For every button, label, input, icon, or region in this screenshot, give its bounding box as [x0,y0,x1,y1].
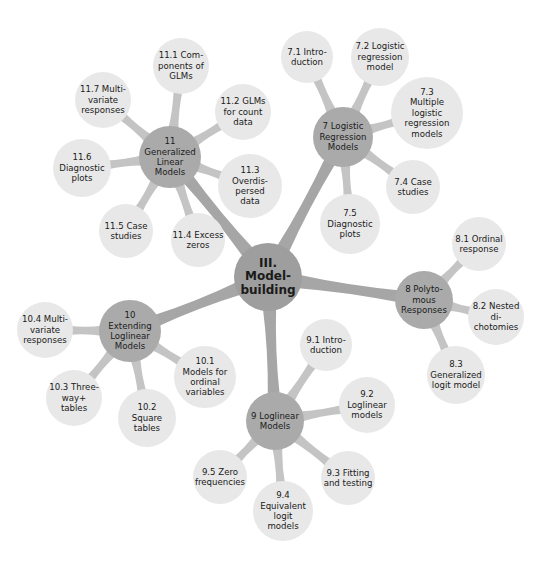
labels-layer: 11.1 Com- ponents of GLMs11.2 GLMs for c… [0,0,548,562]
topic-label-s11_5: 11.5 Case studies [97,202,155,260]
topic-label-s9_1: 9.1 Intro- duction [298,317,354,373]
root-label: III. Model- building [232,241,304,313]
topic-label-s11_3: 11.3 Overdis- persed data [216,152,284,220]
topic-label-s8_2: 8.2 Nested di- chotomies [466,287,526,347]
topic-label-s11_7: 11.7 Multi- variate responses [73,70,133,130]
chapter-label-ch8: 8 Polyto- mous Responses [393,269,455,331]
topic-label-s10_1: 10.1 Models for ordinal variables [172,344,238,410]
chapter-label-ch11: 11 Generalized Linear Models [137,124,203,190]
topic-label-s8_3: 8.3 Generalized logit model [425,344,487,406]
chapter-label-ch10: 10 Extending Loglinear Models [97,298,163,364]
topic-label-s7_1: 7.1 Intro- duction [279,29,335,85]
topic-label-s11_6: 11.6 Diagnostic plots [51,137,113,199]
topic-label-s10_3: 10.3 Three- way+ tables [44,368,104,428]
chapter-label-ch7: 7 Logistic Regression Models [311,105,375,169]
topic-label-s9_4: 9.4 Equivalent logit models [251,479,315,543]
topic-label-s9_2: 9.2 Loglinear models [337,375,397,435]
topic-label-s11_4: 11.4 Excess zeros [169,211,227,269]
topic-label-s7_5: 7.5 Diagnostic plots [318,192,382,256]
topic-label-s8_1: 8.1 Ordinal response [450,215,508,273]
topic-label-s10_2: 10.2 Square tables [116,387,178,449]
chapter-label-ch9: 9 Loglinear Models [244,390,306,452]
topic-label-s10_4: 10.4 Multi- variate responses [15,300,75,360]
topic-label-s7_4: 7.4 Case studies [384,158,442,216]
topic-label-s11_1: 11.1 Com- ponents of GLMs [151,36,211,96]
topic-label-s9_5: 9.5 Zero frequencies [191,448,249,506]
topic-label-s7_3: 7.3 Multiple logistic regression models [389,75,465,151]
topic-label-s11_2: 11.2 GLMs for count data [213,82,273,142]
topic-label-s9_3: 9.3 Fitting and testing [319,449,377,507]
